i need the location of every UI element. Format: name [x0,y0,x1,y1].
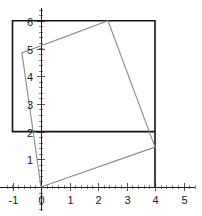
y-tick-label: 6 [27,16,33,28]
y-tick-label: 3 [27,99,33,111]
x-tick-label: 2 [95,194,101,206]
x-tick-label: -1 [9,194,19,206]
bounding-rectangle [13,21,156,187]
tick-label-group: -1012345123456 [9,16,188,207]
plot-figure: -1012345123456 [0,0,202,216]
y-tick-label: 1 [27,154,33,166]
x-tick-label: 1 [67,194,73,206]
plot-canvas: -1012345123456 [0,0,202,216]
x-tick-label: 3 [124,194,130,206]
minor-tick-group [8,11,196,210]
y-tick-label: 2 [27,127,33,139]
y-tick-label: 5 [27,44,33,56]
x-tick-label: 0 [38,194,44,206]
data-series-group [13,21,156,187]
x-tick-label: 5 [181,194,187,206]
x-tick-label: 4 [152,194,158,206]
y-tick-label: 4 [27,71,33,83]
